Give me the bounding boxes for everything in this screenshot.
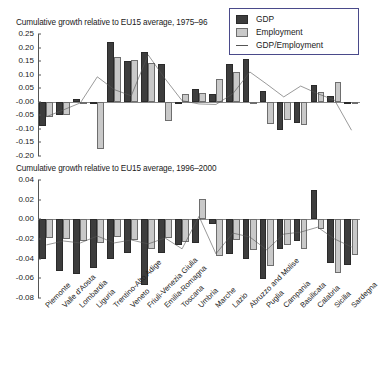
bar-gdp [73, 99, 80, 102]
bar-gdp [175, 102, 182, 104]
bar-gdp [175, 219, 182, 245]
bar-employment [301, 219, 308, 249]
bar-employment [318, 219, 325, 229]
y-tick-label: 0.15 [18, 57, 34, 65]
bar-employment [114, 219, 121, 237]
bar-employment [352, 219, 359, 254]
y-tick-label: 0.25 [18, 30, 34, 38]
legend-label-employment: Employment [256, 28, 303, 36]
legend-item-ratio: GDP/Employment [236, 39, 354, 52]
bar-gdp [294, 102, 301, 124]
bar-gdp [56, 102, 63, 115]
y-tick-label: -0.20 [16, 152, 34, 160]
legend-label-gdp: GDP [256, 15, 274, 23]
y-tick-mark [38, 239, 41, 240]
legend-swatch-gdp-icon [236, 15, 248, 24]
bar-gdp [90, 219, 97, 268]
bar-employment [267, 102, 274, 125]
bar-employment [250, 102, 257, 104]
y-tick-label: -0.08 [16, 294, 34, 302]
bar-gdp [243, 59, 250, 102]
y-axis-ticklabels-top: 0.250.200.150.100.05-0.00-0.05-0.10-0.15… [4, 34, 38, 156]
y-tick-label: 0.00 [18, 215, 34, 223]
bar-employment [131, 219, 138, 240]
y-tick-mark [38, 142, 41, 143]
bar-gdp [124, 219, 131, 252]
y-tick-mark [38, 34, 41, 35]
y-tick-mark [38, 61, 41, 62]
bar-gdp [209, 219, 216, 224]
y-tick-label: -0.10 [16, 125, 34, 133]
bar-employment [216, 219, 223, 255]
y-tick-label: 0.10 [18, 71, 34, 79]
legend-line-ratio-icon [236, 41, 248, 50]
bar-gdp [107, 42, 114, 102]
y-tick-mark [38, 219, 41, 220]
bar-employment [233, 72, 240, 101]
y-tick-mark [38, 88, 41, 89]
y-tick-mark [38, 278, 41, 279]
bar-employment [80, 102, 87, 104]
bar-employment [63, 219, 70, 239]
legend-item-gdp: GDP [236, 13, 354, 26]
y-tick-label: -0.00 [16, 98, 34, 106]
y-tick-mark [38, 180, 41, 181]
bar-gdp [260, 219, 267, 279]
bar-gdp [294, 219, 301, 241]
chart-legend: GDP Employment GDP/Employment [229, 8, 359, 55]
bar-employment [46, 219, 53, 238]
y-tick-mark [38, 156, 41, 157]
y-tick-label: 0.05 [18, 84, 34, 92]
bar-gdp [226, 219, 233, 253]
bar-gdp [327, 96, 334, 101]
bar-employment [97, 219, 104, 243]
bar-gdp [226, 64, 233, 101]
bar-employment [80, 219, 87, 241]
y-axis-ticklabels-bottom: 0.040.020.00-0.02-0.04-0.06-0.08 [4, 180, 38, 298]
bar-employment [335, 82, 342, 102]
bar-employment [165, 102, 172, 121]
y-tick-mark [38, 74, 41, 75]
bar-employment [199, 93, 206, 102]
bar-gdp [311, 190, 318, 220]
y-tick-label: -0.02 [16, 235, 34, 243]
y-tick-label: 0.04 [18, 176, 34, 184]
y-tick-mark [38, 101, 41, 102]
bar-gdp [344, 102, 351, 104]
bar-employment [233, 219, 240, 240]
chart-title-top: Cumulative growth relative to EU15 avera… [16, 18, 208, 27]
y-tick-label: -0.06 [16, 274, 34, 282]
bar-gdp [124, 61, 131, 102]
y-tick-mark [38, 258, 41, 259]
y-tick-label: -0.05 [16, 111, 34, 119]
bar-employment [335, 219, 342, 273]
chart-title-bottom: Cumulative growth relative to EU15 avera… [16, 164, 216, 173]
bar-employment [318, 92, 325, 102]
bar-employment [284, 102, 291, 120]
x-axis-labels: PiemonteValle d'AostaLombardiaLiguriaTre… [38, 304, 360, 391]
bar-gdp [327, 219, 334, 262]
bar-gdp [56, 219, 63, 271]
y-tick-label: -0.04 [16, 255, 34, 263]
bar-gdp [192, 89, 199, 101]
bar-gdp [141, 52, 148, 101]
bar-employment [216, 79, 223, 102]
bar-gdp [344, 219, 351, 264]
bar-gdp [90, 102, 97, 104]
bar-employment [199, 199, 206, 220]
bar-employment [267, 219, 274, 265]
legend-swatch-employment-icon [236, 28, 248, 37]
bar-employment [284, 219, 291, 245]
bar-employment [301, 102, 308, 125]
bar-employment [114, 57, 121, 102]
legend-label-ratio: GDP/Employment [256, 41, 323, 49]
y-tick-mark [38, 47, 41, 48]
bar-gdp [277, 102, 284, 130]
y-tick-label: -0.15 [16, 138, 34, 146]
y-tick-label: 0.02 [18, 196, 34, 204]
y-tick-mark [38, 298, 41, 299]
bar-employment [97, 102, 104, 149]
bar-gdp [243, 219, 250, 258]
y-tick-mark [38, 199, 41, 200]
